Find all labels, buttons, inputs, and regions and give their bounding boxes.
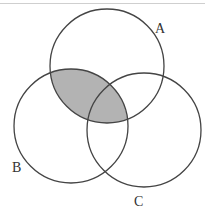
circle-c (87, 73, 201, 187)
venn-diagram: A B C (0, 0, 210, 213)
label-c: C (134, 194, 143, 209)
label-a: A (155, 21, 166, 36)
label-b: B (12, 160, 21, 175)
